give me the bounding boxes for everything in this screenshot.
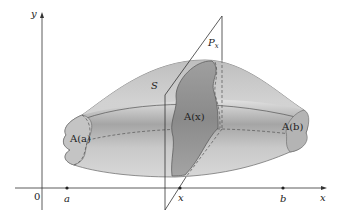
plane-label: Px — [207, 37, 219, 50]
point-x-label: x — [178, 192, 184, 203]
solid-diagram: y 0 x a x b S Px A(a) A(x) A(b) — [0, 0, 345, 222]
solid-label: S — [151, 80, 158, 91]
cross-section-label-left: A(a) — [69, 133, 91, 144]
origin-label: 0 — [34, 191, 40, 202]
point-b — [281, 186, 284, 189]
y-axis-label: y — [30, 8, 37, 19]
x-axis-arrow-icon — [321, 186, 327, 190]
y-axis-arrow-icon — [40, 12, 44, 18]
cross-section-label-middle: A(x) — [183, 111, 205, 122]
point-a — [65, 186, 68, 189]
cross-section-label-right: A(b) — [281, 121, 304, 132]
point-x — [178, 186, 181, 189]
point-b-label: b — [280, 193, 286, 204]
x-axis-label: x — [320, 192, 326, 203]
point-a-label: a — [64, 193, 70, 204]
